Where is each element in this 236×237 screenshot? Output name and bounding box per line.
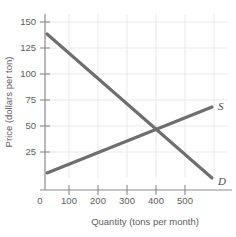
x-tick-0: 0: [37, 195, 42, 206]
x-axis-title: Quantity (tons per month): [91, 216, 199, 227]
y-tick-25: 25: [25, 146, 36, 157]
demand-curve-label: D: [217, 175, 226, 187]
y-tick-125: 125: [20, 42, 36, 53]
chart-background: [0, 0, 236, 237]
x-tick-300: 300: [119, 195, 135, 206]
y-tick-100: 100: [20, 68, 36, 79]
chart-canvas: 150 125 100 75 50 25 0 100 200 300 400 5…: [0, 0, 236, 237]
supply-curve-label: S: [218, 100, 224, 112]
y-tick-75: 75: [25, 94, 36, 105]
y-tick-50: 50: [25, 120, 36, 131]
supply-demand-chart: 150 125 100 75 50 25 0 100 200 300 400 5…: [0, 0, 236, 237]
x-tick-500: 500: [177, 195, 193, 206]
x-tick-200: 200: [90, 195, 106, 206]
x-tick-100: 100: [61, 195, 77, 206]
y-axis-title: Price (dollars per ton): [3, 57, 14, 148]
x-tick-400: 400: [148, 195, 164, 206]
y-tick-150: 150: [20, 16, 36, 27]
